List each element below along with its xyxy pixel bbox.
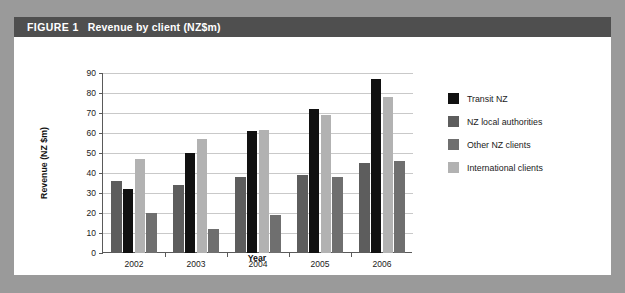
y-tick-label: 0 <box>91 248 96 258</box>
bar-other_nz_clients <box>270 215 281 253</box>
figure-number-label: FIGURE 1 <box>27 21 79 33</box>
bar-international_clients <box>197 139 208 253</box>
legend-item-nz_local_authorities: NZ local authorities <box>448 110 598 133</box>
figure-title-bar: FIGURE 1 Revenue by client (NZ$m) <box>14 17 611 37</box>
bar-group <box>235 73 281 253</box>
bar-nz_local_authorities <box>235 177 246 253</box>
bar-group <box>173 73 219 253</box>
legend-label-transit_nz: Transit NZ <box>467 94 508 104</box>
legend-item-transit_nz: Transit NZ <box>448 87 598 110</box>
legend-label-nz_local_authorities: NZ local authorities <box>467 117 542 127</box>
bar-other_nz_clients <box>146 213 157 253</box>
bar-transit_nz <box>247 131 258 253</box>
y-tick-label: 20 <box>87 208 96 218</box>
y-tick-label: 80 <box>87 88 96 98</box>
legend-swatch-other_nz_clients <box>448 139 459 150</box>
bar-transit_nz <box>309 109 320 253</box>
bar-nz_local_authorities <box>297 175 308 253</box>
y-tick-label: 70 <box>87 108 96 118</box>
y-tick-label: 30 <box>87 188 96 198</box>
bar-other_nz_clients <box>394 161 405 253</box>
legend-swatch-transit_nz <box>448 93 459 104</box>
legend-label-other_nz_clients: Other NZ clients <box>467 140 531 150</box>
bar-transit_nz <box>123 189 134 253</box>
y-tick-label: 90 <box>87 68 96 78</box>
bar-international_clients <box>259 130 270 253</box>
y-axis-title: Revenue (NZ $m) <box>38 73 50 253</box>
chart-legend: Transit NZNZ local authoritiesOther NZ c… <box>448 87 598 179</box>
bar-international_clients <box>321 115 332 253</box>
y-tick-label: 10 <box>87 228 96 238</box>
bar-nz_local_authorities <box>359 163 370 253</box>
x-axis-title: Year <box>102 253 412 263</box>
y-tick-label: 60 <box>87 128 96 138</box>
bar-group <box>111 73 157 253</box>
legend-swatch-nz_local_authorities <box>448 116 459 127</box>
bar-transit_nz <box>185 153 196 253</box>
legend-item-other_nz_clients: Other NZ clients <box>448 133 598 156</box>
bar-other_nz_clients <box>332 177 343 253</box>
plot-wrapper: 0102030405060708090 20022003200420052006 <box>102 73 412 253</box>
legend-label-international_clients: International clients <box>467 163 543 173</box>
bar-international_clients <box>135 159 146 253</box>
figure-caption: Revenue by client (NZ$m) <box>88 21 221 33</box>
bar-nz_local_authorities <box>111 181 122 253</box>
bar-group <box>359 73 405 253</box>
y-tick-label: 40 <box>87 168 96 178</box>
chart-area: Revenue (NZ $m) 0102030405060708090 2002… <box>14 37 611 275</box>
y-tick-label: 50 <box>87 148 96 158</box>
legend-item-international_clients: International clients <box>448 156 598 179</box>
bars-layer <box>103 73 413 253</box>
figure-panel: FIGURE 1 Revenue by client (NZ$m) Revenu… <box>14 17 611 275</box>
legend-swatch-international_clients <box>448 162 459 173</box>
bar-nz_local_authorities <box>173 185 184 253</box>
bar-transit_nz <box>371 79 382 253</box>
bar-group <box>297 73 343 253</box>
plot-inner: 0102030405060708090 20022003200420052006 <box>102 73 412 253</box>
bar-international_clients <box>383 97 394 253</box>
bar-other_nz_clients <box>208 229 219 253</box>
